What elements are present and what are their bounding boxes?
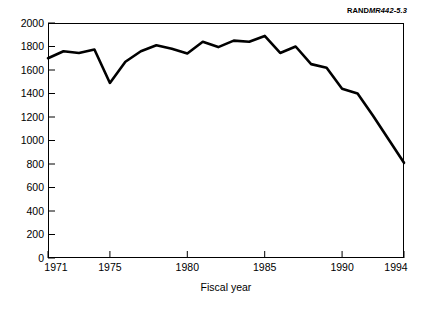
y-tick-label: 2000 [2, 18, 44, 28]
figure-id-label: MR442-5.3 [369, 6, 407, 15]
rand-brand-label: RAND [347, 6, 369, 15]
y-tick-label: 400 [2, 206, 44, 216]
x-tick-label: 1985 [253, 261, 276, 273]
x-axis-tick-labels: 197119751980198519901994 [0, 261, 425, 277]
x-tick-label: 1994 [384, 261, 407, 273]
y-tick-label: 1200 [2, 112, 44, 122]
y-tick-label: 600 [2, 182, 44, 192]
x-tick-label: 1980 [176, 261, 199, 273]
rand-source-credit: RANDMR442-5.3 [347, 7, 407, 15]
x-axis-title: Fiscal year [48, 281, 404, 293]
y-tick-label: 800 [2, 159, 44, 169]
x-tick-label: 1975 [98, 261, 121, 273]
y-tick-label: 1000 [2, 135, 44, 145]
x-tick-label: 1990 [330, 261, 353, 273]
y-tick-label: 1400 [2, 88, 44, 98]
x-tick-label: 1971 [44, 261, 67, 273]
y-tick-label: 1800 [2, 41, 44, 51]
y-tick-label: 1600 [2, 65, 44, 75]
plot-area-frame [48, 23, 404, 258]
y-tick-label: 200 [2, 229, 44, 239]
figure-container: RANDMR442-5.3 02004006008001000120014001… [0, 0, 425, 310]
